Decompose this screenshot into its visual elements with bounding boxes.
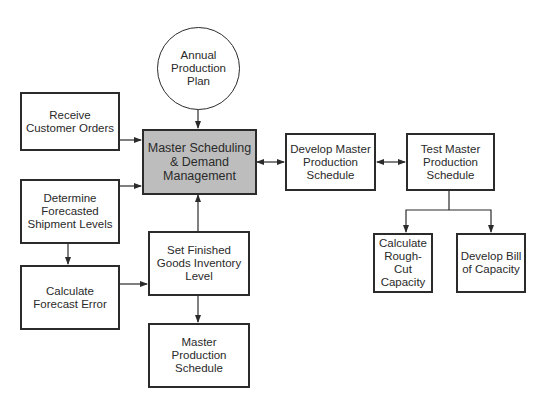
set-inventory-level-node: Set Finished Goods Inventory Level xyxy=(148,231,250,296)
rough-cut-capacity-node: Calculate Rough-Cut Capacity xyxy=(373,233,433,293)
calculate-forecast-error-label: Calculate Forecast Error xyxy=(33,285,107,311)
develop-mps-node: Develop Master Production Schedule xyxy=(285,133,376,191)
edge-test-to-bill xyxy=(449,210,491,232)
bill-of-capacity-node: Develop Bill of Capacity xyxy=(456,233,526,293)
master-scheduling-node: Master Scheduling & Demand Management xyxy=(142,129,257,195)
master-scheduling-label: Master Scheduling & Demand Management xyxy=(148,141,252,183)
master-production-schedule-label: Master Production Schedule xyxy=(172,336,227,375)
receive-customer-orders-label: Receive Customer Orders xyxy=(26,109,114,135)
test-mps-node: Test Master Production Schedule xyxy=(406,133,495,191)
master-production-schedule-node: Master Production Schedule xyxy=(148,323,250,388)
receive-customer-orders-node: Receive Customer Orders xyxy=(20,92,120,151)
bill-of-capacity-label: Develop Bill of Capacity xyxy=(461,250,522,276)
develop-mps-label: Develop Master Production Schedule xyxy=(290,143,371,182)
determine-forecast-label: Determine Forecasted Shipment Levels xyxy=(27,192,112,231)
rough-cut-capacity-label: Calculate Rough-Cut Capacity xyxy=(377,237,429,289)
annual-production-plan-node: Annual Production Plan xyxy=(157,27,240,110)
determine-forecast-node: Determine Forecasted Shipment Levels xyxy=(20,179,120,244)
set-inventory-level-label: Set Finished Goods Inventory Level xyxy=(157,244,241,283)
annual-production-plan-label: Annual Production Plan xyxy=(171,49,226,88)
test-mps-label: Test Master Production Schedule xyxy=(421,143,480,182)
calculate-forecast-error-node: Calculate Forecast Error xyxy=(20,265,120,330)
edge-test-to-roughcut xyxy=(406,210,449,232)
